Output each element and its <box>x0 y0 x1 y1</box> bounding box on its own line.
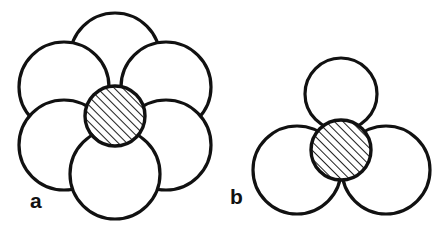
panel-a: a <box>19 13 211 219</box>
panel-label-b: b <box>230 185 243 208</box>
packing-diagram-canvas: a b <box>0 0 445 226</box>
interstitial-sphere-a-group <box>85 86 145 146</box>
interstitial-sphere-b-group <box>311 120 371 180</box>
figure-root: a b <box>0 0 445 226</box>
panel-b: b <box>230 58 430 214</box>
panel-label-a: a <box>30 189 42 212</box>
